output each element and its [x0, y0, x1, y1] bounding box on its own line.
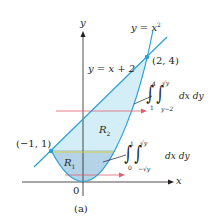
parabola-label-text: y = x [131, 22, 157, 33]
point-2-4 [145, 55, 149, 59]
parabola-exponent: 2 [157, 21, 161, 28]
double-integral-region-figure: y x 0 y = x2 y = x + 2 (2, 4) (−1, 1) R2… [0, 0, 218, 224]
inner-integral-sign-icon: ∫ [156, 83, 164, 103]
lower-outer-lower-limit: 0 [128, 165, 132, 171]
line-label: y = x + 2 [88, 64, 135, 74]
y-axis-arrow-icon [81, 31, 86, 37]
x-axis-label: x [176, 176, 182, 186]
point-neg1-1-label: (−1, 1) [16, 139, 51, 149]
region-r1-letter: R [64, 157, 72, 168]
upper-differentials: dx dy [179, 91, 204, 101]
point-neg1-1 [49, 149, 53, 153]
upper-double-integral: ∫ ∫ 4 1 √y y−2 dx dy [145, 80, 215, 116]
lower-differentials: dx dy [165, 151, 190, 161]
figure-caption: (a) [74, 204, 88, 214]
region-r1-subscript: 1 [72, 163, 76, 170]
point-2-4-label: (2, 4) [152, 56, 179, 66]
upper-inner-upper-limit: √y [162, 80, 169, 86]
parabola-label: y = x2 [131, 22, 161, 33]
region-r2-label: R2 [99, 125, 110, 137]
lower-outer-upper-limit: 1 [130, 141, 134, 147]
upper-inner-lower-limit: y−2 [161, 106, 173, 112]
lower-inner-upper-limit: √y [140, 140, 147, 146]
lower-double-integral: ∫ ∫ 1 0 √y −√y dx dy [123, 140, 215, 176]
x-axis-arrow-icon [168, 180, 174, 185]
region-r2-letter: R [99, 124, 107, 135]
region-r1-label: R1 [64, 158, 75, 170]
lower-inner-lower-limit: −√y [138, 166, 150, 172]
region-r2-subscript: 2 [107, 130, 111, 137]
upper-outer-lower-limit: 1 [150, 105, 154, 111]
origin-label: 0 [73, 186, 79, 196]
upper-outer-upper-limit: 4 [152, 81, 156, 87]
inner-integral-sign-icon: ∫ [134, 143, 142, 163]
y-axis-label: y [80, 18, 86, 28]
